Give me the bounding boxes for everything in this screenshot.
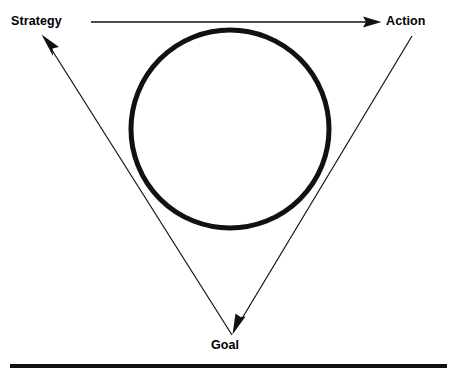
strategy-action-goal-diagram: Strategy Action Goal — [0, 0, 455, 377]
node-label-goal: Goal — [211, 339, 239, 352]
diagram-canvas — [0, 0, 455, 377]
arrowhead-strategy — [42, 35, 60, 57]
edge-action-to-goal — [241, 36, 413, 321]
node-label-action: Action — [386, 15, 426, 28]
node-label-strategy: Strategy — [11, 15, 62, 28]
center-circle — [131, 30, 329, 228]
